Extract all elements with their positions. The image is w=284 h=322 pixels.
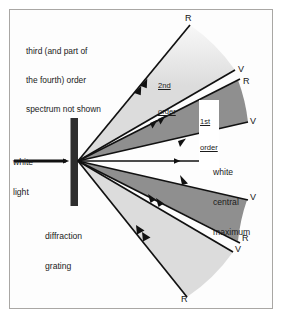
second-order-line-1: 2nd	[158, 82, 176, 91]
central-line-2: central	[213, 198, 250, 208]
label-first-order: 1st order	[199, 100, 219, 170]
first-order-line-2: order	[200, 144, 218, 153]
ray-label-upper-first-order-violet: V	[250, 116, 256, 126]
grating-line-2: grating	[45, 262, 82, 272]
note-line-1: third (and part of	[26, 47, 101, 57]
white-light-line-1: white	[13, 158, 33, 168]
first-order-line-1: 1st	[200, 118, 218, 127]
ray-label-lower-second-order-violet: V	[235, 244, 241, 254]
label-second-order: 2nd order	[158, 64, 176, 134]
label-diffraction-grating: diffraction grating	[45, 212, 82, 292]
ray-label-lower-first-order-red: R	[242, 233, 249, 243]
note-line-3: spectrum not shown	[26, 105, 101, 115]
second-order-line-2: order	[158, 108, 176, 117]
central-maximum-ray	[78, 158, 208, 164]
ray-label-lower-first-order-violet: V	[250, 192, 256, 202]
ray-label-bottom-second-order-red: R	[181, 294, 188, 304]
ray-label-upper-first-order-red: R	[243, 76, 250, 86]
white-light-line-2: light	[13, 188, 33, 198]
label-white-light: white light	[13, 138, 33, 218]
note-spectrum-not-shown: third (and part of the fourth) order spe…	[26, 27, 101, 134]
ray-label-top-second-order-red: R	[185, 13, 192, 23]
figure-root: third (and part of the fourth) order spe…	[0, 0, 284, 322]
ray-label-upper-second-order-violet: V	[238, 64, 244, 74]
grating-line-1: diffraction	[45, 232, 82, 242]
note-line-2: the fourth) order	[26, 76, 101, 86]
